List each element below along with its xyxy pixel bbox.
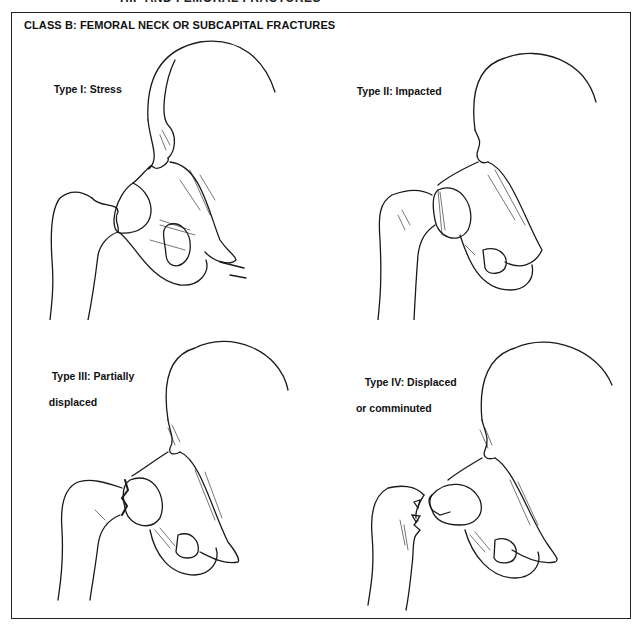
panel-type-3: Type III: Partially displaced [0,320,320,620]
hip-illustration-stress [0,40,320,320]
panel-type-4: Type IV: Displaced or comminuted [320,320,639,620]
hip-illustration-displaced-comminuted [320,320,639,620]
cut-off-header-text: HIP AND FEMORAL FRACTURES [120,0,321,5]
panel-type-2: Type II: Impacted [320,40,639,320]
hip-illustration-partially-displaced [0,320,320,620]
figure-title: CLASS B: FEMORAL NECK OR SUBCAPITAL FRAC… [24,19,335,31]
panel-type-1: Type I: Stress [0,40,320,320]
hip-illustration-impacted [320,40,639,320]
